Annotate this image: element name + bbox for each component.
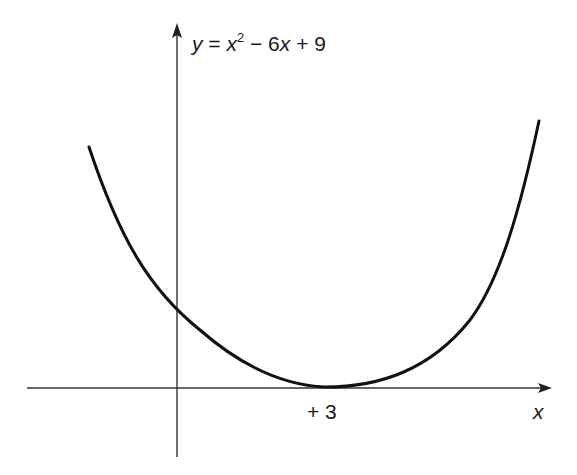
vertex-label: + 3 <box>307 400 337 424</box>
x-axis-label: x <box>533 400 544 424</box>
eq-x: x <box>226 32 237 55</box>
eq-const: + 9 <box>290 32 326 55</box>
eq-term: − 6 <box>244 32 280 55</box>
eq-y: y <box>192 32 203 55</box>
parabola-graph <box>0 0 577 475</box>
equation-label: y = x2 − 6x + 9 <box>192 30 326 56</box>
eq-equals: = <box>203 32 227 55</box>
eq-x2: x <box>280 32 291 55</box>
parabola-curve <box>89 121 539 387</box>
